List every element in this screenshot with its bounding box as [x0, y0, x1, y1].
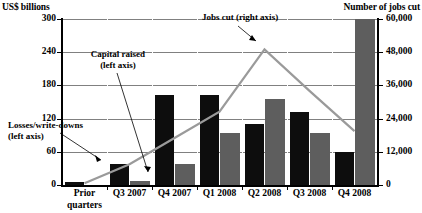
- annotation-jobs-line1: Jobs cut (right axis): [202, 12, 278, 22]
- left-axis-tick-mark: [57, 19, 62, 20]
- category-tick-mark: [152, 185, 153, 190]
- category-separator: [332, 19, 333, 185]
- annotation-capital-line2: (left axis): [100, 60, 136, 70]
- category-tick-mark: [107, 185, 108, 190]
- category-label: Q4 2007: [152, 188, 197, 200]
- gridline: [62, 85, 377, 86]
- bar-capital-raised: [310, 133, 330, 185]
- annotation-losses-line2: (left axis): [8, 131, 44, 141]
- right-axis-line: [377, 18, 379, 186]
- left-axis-tick-label: 240: [42, 46, 56, 56]
- category-label-line1: Q4 2007: [158, 188, 192, 198]
- right-axis-tick-label: 60,000: [386, 13, 412, 23]
- category-separator: [107, 19, 108, 185]
- annotation-capital-raised: Capital raised (left axis): [63, 49, 173, 71]
- bar-losses-write-downs: [245, 124, 265, 185]
- bar-capital-raised: [220, 133, 240, 185]
- category-label-line1: Q1 2008: [203, 188, 237, 198]
- category-label-line2: quarters: [67, 200, 102, 210]
- left-axis-tick-label: 60: [47, 146, 57, 156]
- category-label: Q2 2008: [242, 188, 287, 200]
- left-axis-title: US$ billions: [2, 2, 50, 12]
- left-axis-tick-mark: [57, 85, 62, 86]
- category-label-line1: Q2 2008: [248, 188, 282, 198]
- category-separator: [197, 19, 198, 185]
- category-label: Q3 2008: [287, 188, 332, 200]
- right-axis-tick-label: 36,000: [386, 79, 412, 89]
- left-axis-tick-label: 180: [42, 79, 56, 89]
- bar-losses-write-downs: [335, 152, 355, 185]
- left-axis-line: [61, 18, 63, 186]
- plot-area: [62, 19, 377, 185]
- right-axis-tick-mark: [378, 119, 383, 120]
- bar-losses-write-downs: [110, 164, 130, 185]
- right-axis-tick-mark: [378, 185, 383, 186]
- category-label-line1: Q3 2008: [293, 188, 327, 198]
- category-label: Q3 2007: [107, 188, 152, 200]
- right-axis-tick-mark: [378, 152, 383, 153]
- bar-losses-write-downs: [290, 112, 310, 185]
- right-axis-tick-mark: [378, 85, 383, 86]
- annotation-losses-write-downs: Losses/write-downs (left axis): [8, 120, 83, 142]
- category-separator: [152, 19, 153, 185]
- right-axis-tick-label: 12,000: [386, 146, 412, 156]
- bar-losses-write-downs: [200, 95, 220, 185]
- bar-capital-raised: [355, 19, 375, 185]
- right-axis-tick-mark: [378, 19, 383, 20]
- right-axis-tick-mark: [378, 52, 383, 53]
- category-tick-mark: [197, 185, 198, 190]
- annotation-capital-line1: Capital raised: [91, 49, 145, 59]
- bar-losses-write-downs: [155, 95, 175, 185]
- left-axis-tick-label: 0: [51, 179, 56, 189]
- category-tick-mark: [332, 185, 333, 190]
- left-axis-tick-label: 300: [42, 13, 56, 23]
- left-axis-tick-mark: [57, 152, 62, 153]
- gridline: [62, 119, 377, 120]
- category-label: Q1 2008: [197, 188, 242, 200]
- annotation-jobs-cut: Jobs cut (right axis): [175, 12, 305, 23]
- category-label-line1: Q4 2008: [338, 188, 372, 198]
- category-label: Priorquarters: [62, 188, 107, 211]
- category-tick-mark: [287, 185, 288, 190]
- bar-capital-raised: [175, 164, 195, 185]
- annotation-losses-line1: Losses/write-downs: [8, 120, 83, 130]
- left-axis-tick-mark: [57, 185, 62, 186]
- right-axis-title: Number of jobs cut: [344, 2, 420, 12]
- right-axis-tick-label: 0: [386, 179, 391, 189]
- category-separator: [287, 19, 288, 185]
- category-label-line1: Prior: [74, 188, 96, 198]
- left-axis-tick-mark: [57, 52, 62, 53]
- category-label-line1: Q3 2007: [113, 188, 147, 198]
- right-axis-tick-label: 48,000: [386, 46, 412, 56]
- chart-container: US$ billions Number of jobs cut 30024018…: [0, 0, 422, 213]
- category-separator: [242, 19, 243, 185]
- bar-capital-raised: [265, 99, 285, 185]
- category-tick-mark: [242, 185, 243, 190]
- right-axis-tick-label: 24,000: [386, 113, 412, 123]
- category-label: Q4 2008: [332, 188, 377, 200]
